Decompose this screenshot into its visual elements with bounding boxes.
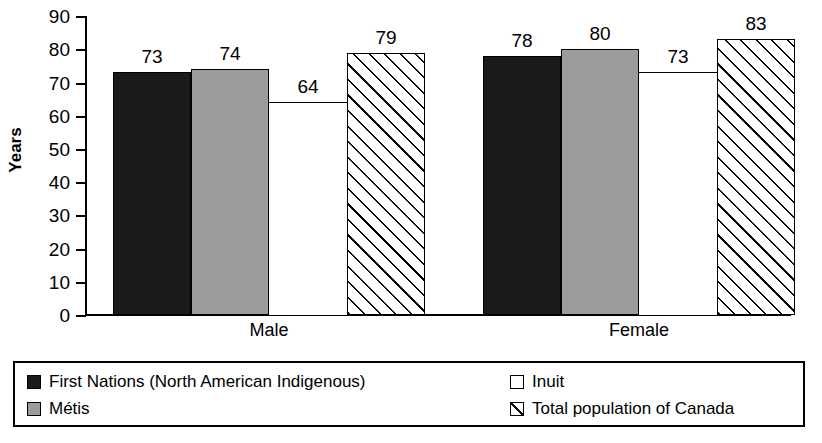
x-axis-label-male: Male bbox=[179, 320, 359, 340]
legend-item-first-nations[interactable]: First Nations (North American Indigenous… bbox=[27, 371, 366, 393]
bar-male-first-nations[interactable] bbox=[113, 72, 191, 315]
bar-male-metis[interactable] bbox=[191, 69, 269, 315]
legend-label-first-nations: First Nations (North American Indigenous… bbox=[49, 373, 366, 391]
legend-swatch-solid-dark-icon bbox=[27, 375, 41, 389]
bar-value-male-inuit: 64 bbox=[268, 77, 348, 96]
legend-item-total-canada[interactable]: Total population of Canada bbox=[510, 398, 734, 420]
bar-value-male-total-canada: 79 bbox=[346, 28, 426, 47]
bar-value-male-metis: 74 bbox=[190, 44, 270, 63]
bar-value-female-total-canada: 83 bbox=[716, 14, 796, 33]
legend-column-left: First Nations (North American Indigenous… bbox=[27, 363, 497, 425]
legend-item-inuit[interactable]: Inuit bbox=[510, 371, 564, 393]
bar-value-male-first-nations: 73 bbox=[112, 47, 192, 66]
bar-female-total-canada[interactable] bbox=[717, 39, 795, 315]
legend-swatch-diagonal-hatch-icon bbox=[510, 402, 524, 416]
bar-female-inuit[interactable] bbox=[639, 72, 717, 315]
bar-female-metis[interactable] bbox=[561, 49, 639, 315]
bars-layer: 73 74 64 79 Male 78 80 73 83 Fem bbox=[0, 0, 822, 350]
legend: First Nations (North American Indigenous… bbox=[13, 361, 805, 427]
plot-area: Years 90 80 70 60 50 40 30 20 10 0 73 bbox=[0, 0, 822, 350]
chart-figure: Years 90 80 70 60 50 40 30 20 10 0 73 bbox=[0, 0, 822, 443]
legend-label-inuit: Inuit bbox=[532, 373, 564, 391]
bar-male-inuit[interactable] bbox=[269, 102, 347, 315]
legend-item-metis[interactable]: Métis bbox=[27, 398, 90, 420]
legend-column-right: Inuit Total population of Canada bbox=[510, 363, 800, 425]
legend-swatch-empty-white-icon bbox=[510, 375, 524, 389]
bar-value-female-first-nations: 78 bbox=[482, 31, 562, 50]
x-axis-label-female: Female bbox=[549, 320, 729, 340]
legend-label-metis: Métis bbox=[49, 400, 90, 418]
bar-value-female-metis: 80 bbox=[560, 24, 640, 43]
legend-swatch-solid-gray-icon bbox=[27, 402, 41, 416]
bar-male-total-canada[interactable] bbox=[347, 53, 425, 315]
bar-female-first-nations[interactable] bbox=[483, 56, 561, 315]
legend-label-total-canada: Total population of Canada bbox=[532, 400, 734, 418]
bar-value-female-inuit: 73 bbox=[638, 47, 718, 66]
